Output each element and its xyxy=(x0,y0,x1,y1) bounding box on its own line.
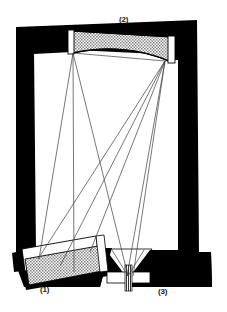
callout-label-2: (2) xyxy=(119,16,128,24)
figure-canvas: (1) (2) (3) xyxy=(0,0,227,312)
callout-label-3: (3) xyxy=(158,288,167,296)
optical-diagram xyxy=(0,0,227,312)
callout-label-1: (1) xyxy=(40,286,49,294)
